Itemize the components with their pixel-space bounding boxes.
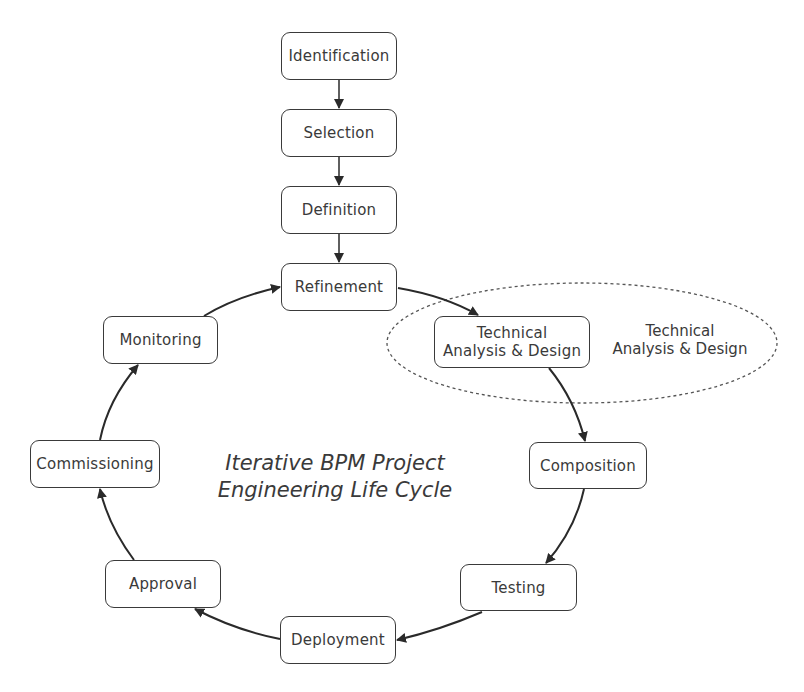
- node-testing-label: Testing: [491, 579, 545, 597]
- node-monitoring-label: Monitoring: [119, 331, 201, 349]
- arrow-composition-testing: [546, 489, 584, 563]
- node-identification-label: Identification: [288, 47, 389, 65]
- diagram-title: Iterative BPM Project Engineering Life C…: [215, 450, 455, 504]
- node-commissioning-label: Commissioning: [36, 455, 153, 473]
- highlight-label-line2: Analysis & Design: [600, 340, 760, 358]
- node-technical-analysis-design: Technical Analysis & Design: [434, 316, 590, 368]
- arrow-approval-commissioning: [100, 489, 134, 560]
- node-identification: Identification: [281, 32, 397, 80]
- arrow-refinement-technical: [398, 288, 478, 315]
- arrow-technical-composition: [549, 368, 585, 441]
- node-deployment-label: Deployment: [291, 631, 385, 649]
- diagram-title-line2: Engineering Life Cycle: [215, 477, 455, 504]
- node-deployment: Deployment: [280, 616, 396, 664]
- node-selection: Selection: [281, 109, 397, 157]
- diagram-title-line1: Iterative BPM Project: [215, 450, 455, 477]
- node-refinement-label: Refinement: [295, 278, 383, 296]
- arrow-deployment-approval: [195, 609, 280, 639]
- node-monitoring: Monitoring: [103, 316, 218, 364]
- node-commissioning: Commissioning: [30, 440, 160, 488]
- node-approval: Approval: [105, 560, 221, 608]
- node-composition: Composition: [529, 442, 647, 489]
- highlight-label-line1: Technical: [600, 322, 760, 340]
- node-definition: Definition: [281, 186, 397, 234]
- highlight-label: Technical Analysis & Design: [600, 322, 760, 358]
- node-technical-line2: Analysis & Design: [443, 342, 581, 360]
- arrow-commissioning-monitoring: [100, 365, 138, 440]
- node-definition-label: Definition: [302, 201, 377, 219]
- arrow-testing-deployment: [397, 612, 482, 640]
- node-testing: Testing: [460, 564, 577, 611]
- node-selection-label: Selection: [304, 124, 375, 142]
- node-refinement: Refinement: [281, 263, 397, 311]
- arrow-monitoring-refinement: [204, 287, 280, 316]
- node-approval-label: Approval: [129, 575, 197, 593]
- node-technical-line1: Technical: [477, 324, 548, 342]
- node-composition-label: Composition: [540, 457, 636, 475]
